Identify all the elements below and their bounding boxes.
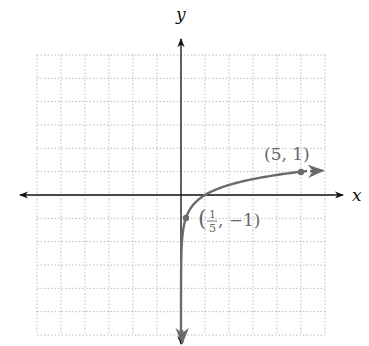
point-5-1 <box>298 169 304 175</box>
svg-text:, −1): , −1) <box>218 210 261 230</box>
curve-arrow-right <box>310 171 323 172</box>
svg-text:5: 5 <box>209 222 216 235</box>
svg-text:(: ( <box>198 206 207 231</box>
log-graph: y x (5, 1) ( 1 5 , −1) <box>0 0 369 346</box>
point1-label: (5, 1) <box>264 144 310 164</box>
x-axis-label: x <box>352 185 362 205</box>
y-axis-label: y <box>175 4 186 24</box>
svg-text:1: 1 <box>209 208 216 221</box>
point-fifth-neg1 <box>183 215 189 221</box>
